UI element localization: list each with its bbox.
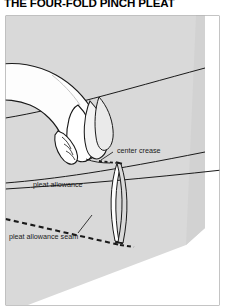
page-title: THE FOUR-FOLD PINCH PLEAT [4, 0, 175, 9]
label-pleat-allowance: pleat allowance [33, 180, 83, 189]
page-root: THE FOUR-FOLD PINCH PLEAT [0, 0, 226, 308]
pinch-pleat-diagram: center crease pleat allowance pleat allo… [0, 13, 226, 308]
page-title-bar: THE FOUR-FOLD PINCH PLEAT [0, 0, 226, 13]
label-pleat-allowance-seam: pleat allowance seam [9, 232, 78, 241]
figure-container: center crease pleat allowance pleat allo… [0, 13, 226, 308]
label-center-crease: center crease [117, 146, 161, 155]
